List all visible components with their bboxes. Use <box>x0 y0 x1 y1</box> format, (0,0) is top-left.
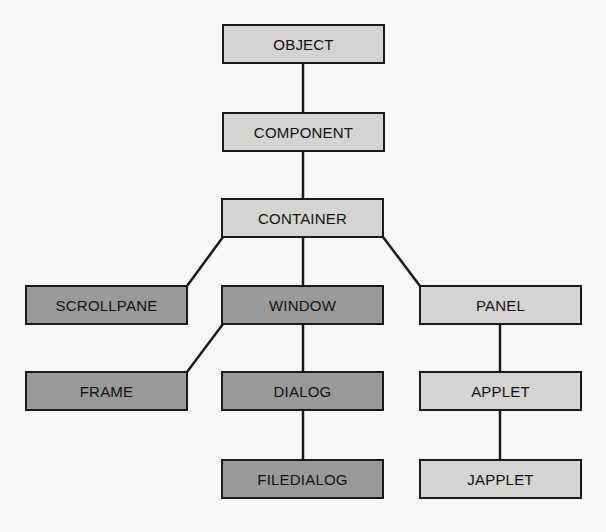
node-filedialog: FILEDIALOG <box>221 459 384 499</box>
node-object: OBJECT <box>222 24 385 64</box>
node-panel: PANEL <box>419 285 582 325</box>
node-window: WINDOW <box>221 285 384 325</box>
node-japplet: JAPPLET <box>419 459 582 499</box>
connector-lines <box>0 0 606 532</box>
node-frame: FRAME <box>25 371 188 411</box>
edge-container-panel <box>383 237 420 286</box>
node-dialog: DIALOG <box>221 371 384 411</box>
node-component: COMPONENT <box>222 112 385 152</box>
node-applet: APPLET <box>419 371 582 411</box>
node-container: CONTAINER <box>221 198 384 238</box>
node-scrollpane: SCROLLPANE <box>25 285 188 325</box>
edge-window-frame <box>187 324 223 372</box>
edge-container-scrollpane <box>187 237 223 286</box>
